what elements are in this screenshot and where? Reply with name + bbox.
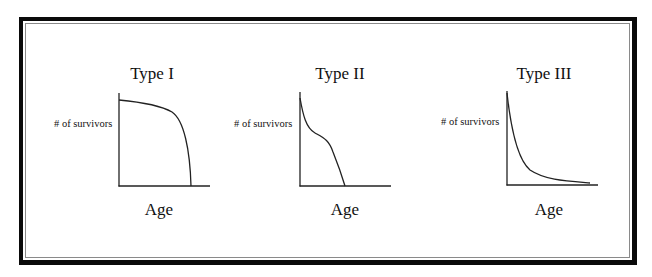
survivorship-curve <box>300 98 345 186</box>
survivorship-curve <box>119 100 191 186</box>
panel-type-2 <box>300 92 392 187</box>
panel-title-type-2: Type II <box>315 65 364 82</box>
x-axis-label-type-1: Age <box>145 201 173 218</box>
panel-title-type-1: Type I <box>130 65 174 82</box>
panel-type-3 <box>507 91 599 186</box>
y-axis-label-type-1: # of survivors <box>54 118 112 129</box>
survivorship-curves <box>0 0 652 277</box>
panel-type-1 <box>119 93 211 187</box>
x-axis-label-type-2: Age <box>331 201 359 218</box>
x-axis-label-type-3: Age <box>535 201 563 218</box>
panel-title-type-3: Type III <box>517 65 572 82</box>
survivorship-curve <box>507 93 590 183</box>
y-axis-label-type-3: # of survivors <box>441 116 499 127</box>
y-axis-label-type-2: # of survivors <box>234 118 292 129</box>
